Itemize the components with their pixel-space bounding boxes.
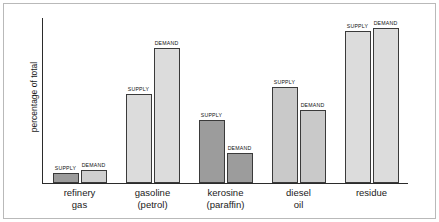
bar-demand: DEMAND: [81, 170, 107, 183]
bar-label: SUPPLY: [347, 24, 368, 29]
category-label-line: (petrol): [116, 199, 189, 211]
bar-label: DEMAND: [301, 103, 325, 108]
bar-label: DEMAND: [82, 163, 106, 168]
bar-group: SUPPLYDEMAND: [335, 18, 408, 183]
bar-supply: SUPPLY: [53, 173, 79, 183]
bar-supply: SUPPLY: [199, 120, 225, 183]
bar-label: DEMAND: [374, 21, 398, 26]
bar-label: SUPPLY: [128, 87, 149, 92]
category-label: kerosine(paraffin): [189, 187, 262, 210]
bar-demand: DEMAND: [227, 153, 253, 183]
bar-supply: SUPPLY: [126, 94, 152, 183]
category-label: gasoline(petrol): [116, 187, 189, 210]
chart-page: percentage of total SUPPLYDEMANDSUPPLYDE…: [0, 0, 439, 222]
bar-label: DEMAND: [228, 146, 252, 151]
category-label-line: kerosine: [189, 187, 262, 199]
bar-label: DEMAND: [155, 41, 179, 46]
x-axis-line: [42, 183, 408, 184]
bar-demand: DEMAND: [373, 28, 399, 183]
bar-demand: DEMAND: [154, 48, 180, 183]
category-label-line: (paraffin): [189, 199, 262, 211]
category-label-line: gasoline: [116, 187, 189, 199]
category-label-line: residue: [335, 187, 408, 199]
bar-group: SUPPLYDEMAND: [43, 18, 116, 183]
category-label: dieseloil: [262, 187, 335, 210]
bar-supply: SUPPLY: [272, 87, 298, 183]
bar-label: SUPPLY: [274, 80, 295, 85]
bar-label: SUPPLY: [201, 113, 222, 118]
bar-label: SUPPLY: [55, 166, 76, 171]
category-label: residue: [335, 187, 408, 199]
category-label-line: refinery: [43, 187, 116, 199]
plot-area: SUPPLYDEMANDSUPPLYDEMANDSUPPLYDEMANDSUPP…: [43, 18, 408, 183]
category-label-line: oil: [262, 199, 335, 211]
category-label-line: diesel: [262, 187, 335, 199]
category-label: refinerygas: [43, 187, 116, 210]
bar-demand: DEMAND: [300, 110, 326, 183]
bar-group: SUPPLYDEMAND: [262, 18, 335, 183]
y-axis-title: percentage of total: [29, 37, 39, 157]
bar-supply: SUPPLY: [345, 31, 371, 183]
bar-group: SUPPLYDEMAND: [116, 18, 189, 183]
bar-group: SUPPLYDEMAND: [189, 18, 262, 183]
category-label-line: gas: [43, 199, 116, 211]
